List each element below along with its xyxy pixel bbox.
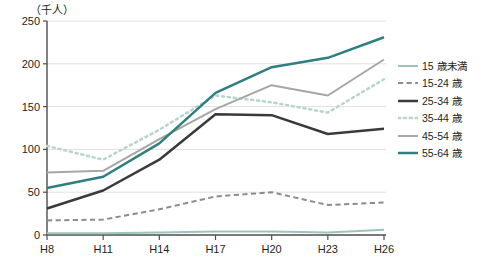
y-axis-tick-label: 150 — [22, 101, 40, 113]
legend-label-1: 15-24 歳 — [422, 78, 462, 89]
line-chart: （千人） 050100150200250H8H11H14H17H20H23H26… — [0, 0, 486, 262]
legend-swatch-2 — [398, 96, 418, 106]
legend-item-3[interactable]: 35-44 歳 — [398, 110, 467, 128]
legend-label-5: 55-64 歳 — [422, 148, 462, 159]
legend-item-4[interactable]: 45-54 歳 — [398, 127, 467, 145]
y-axis-tick-label: 200 — [22, 58, 40, 70]
series-line-0 — [47, 230, 384, 233]
legend-swatch-4 — [398, 131, 418, 141]
legend-label-2: 25-34 歳 — [422, 96, 462, 107]
legend-swatch-1 — [398, 78, 418, 88]
x-axis-tick-label: H17 — [205, 243, 225, 255]
x-axis-tick-label: H8 — [40, 243, 54, 255]
legend-swatch-0 — [398, 61, 418, 71]
series-line-5 — [47, 37, 384, 188]
x-axis-tick-label: H23 — [318, 243, 338, 255]
series-line-1 — [47, 192, 384, 220]
x-axis-tick-label: H26 — [374, 243, 394, 255]
x-axis-tick-label: H14 — [149, 243, 169, 255]
legend-item-1[interactable]: 15-24 歳 — [398, 75, 467, 93]
legend-item-5[interactable]: 55-64 歳 — [398, 145, 467, 163]
series-line-2 — [47, 114, 384, 208]
y-axis-tick-label: 100 — [22, 143, 40, 155]
legend-swatch-3 — [398, 113, 418, 123]
y-axis-tick-label: 250 — [22, 15, 40, 27]
legend-item-2[interactable]: 25-34 歳 — [398, 92, 467, 110]
x-axis-tick-label: H11 — [93, 243, 112, 255]
y-axis-tick-label: 0 — [34, 229, 40, 241]
series-line-4 — [47, 60, 384, 173]
legend-label-4: 45-54 歳 — [422, 131, 462, 142]
legend-swatch-5 — [398, 148, 418, 158]
legend-item-0[interactable]: 15 歳未満 — [398, 57, 467, 75]
x-axis-tick-label: H20 — [262, 243, 282, 255]
chart-legend: 15 歳未満15-24 歳25-34 歳35-44 歳45-54 歳55-64 … — [398, 57, 467, 162]
legend-label-3: 35-44 歳 — [422, 113, 462, 124]
y-axis-tick-label: 50 — [28, 186, 40, 198]
legend-label-0: 15 歳未満 — [422, 61, 467, 72]
